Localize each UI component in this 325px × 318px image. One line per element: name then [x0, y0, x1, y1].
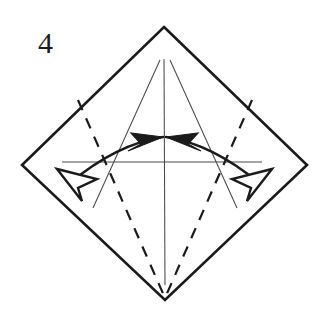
origami-diagram-canvas	[0, 0, 325, 318]
origami-diagram-figure: 4	[0, 0, 325, 318]
